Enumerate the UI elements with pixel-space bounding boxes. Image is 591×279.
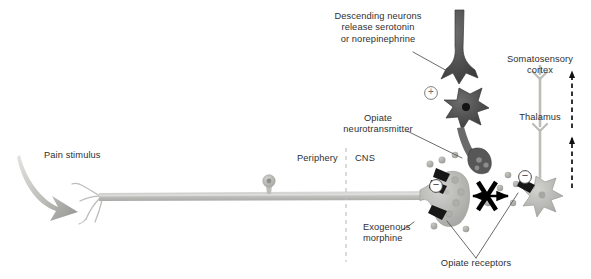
label-somatosensory-cortex: Somatosensory cortex [489,54,591,77]
label-cns: CNS [355,153,375,164]
label-pain-stimulus: Pain stimulus [44,150,101,161]
label-opiate-neurotransmitter: Opiate neurotransmitter [337,113,419,136]
label-thalamus: Thalamus [500,112,580,123]
pain-stimulus-arrow [17,155,78,221]
label-periphery: Periphery [297,153,338,164]
inhibitory-symbol-left: − [426,179,446,190]
descending-neuron [441,10,478,84]
diagram-canvas: Pain stimulus Descending neurons release… [0,0,591,279]
opiate-interneuron [444,88,491,174]
label-exogenous-morphine: Exogenous morphine [363,222,410,245]
free-nerve-endings-icon [72,183,102,224]
inhibitory-symbol-right: − [515,170,535,181]
label-descending-neurons: Descending neurons release serotonin or … [322,11,434,45]
peripheral-axon [99,191,424,201]
diagram-artwork [0,0,591,279]
ganglion-cell-body [263,175,275,194]
excitatory-symbol: + [421,86,441,97]
label-opiate-receptors: Opiate receptors [421,258,531,269]
